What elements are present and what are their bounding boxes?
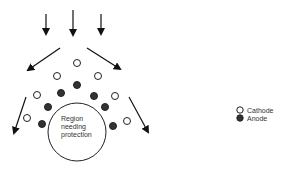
incoming-arrows xyxy=(46,10,101,35)
anode-icon xyxy=(45,104,52,111)
arrow-diag-left xyxy=(28,48,60,70)
anode-icon xyxy=(58,90,65,97)
arrow-diag-right xyxy=(87,48,120,69)
legend: Cathode Anode xyxy=(237,107,274,122)
cathode-icon xyxy=(54,73,61,80)
cathodic-protection-diagram: Region needing protection Cathode Anode xyxy=(0,0,293,171)
arrow-outer-right xyxy=(129,97,148,132)
cathode-icon xyxy=(34,92,41,99)
anode-icon xyxy=(74,82,81,89)
legend-cathode-label: Cathode xyxy=(247,107,274,114)
legend-anode-label: Anode xyxy=(247,115,267,122)
anode-icon xyxy=(91,93,98,100)
anode-icon xyxy=(102,104,109,111)
anode-icon xyxy=(110,123,117,130)
cathode-icon xyxy=(112,93,119,100)
anode-icon xyxy=(39,121,46,128)
anode-legend-icon xyxy=(237,115,243,121)
arrow-outer-left xyxy=(14,97,26,133)
cathode-legend-icon xyxy=(237,107,243,113)
cathode-icon xyxy=(95,73,102,80)
cathode-icon xyxy=(124,118,131,125)
cathode-icon xyxy=(24,115,31,122)
cathode-icon xyxy=(74,60,81,67)
